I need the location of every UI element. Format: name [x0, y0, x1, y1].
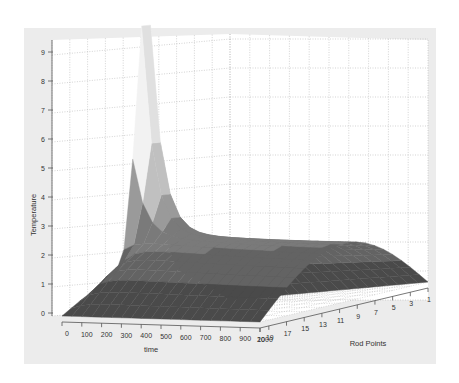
x-tick-label: 300 — [121, 332, 133, 339]
x-axis-label: time — [144, 345, 158, 354]
x-tick-label: 100 — [81, 331, 93, 338]
z-tick-label: 3 — [41, 223, 45, 230]
x-tick-label: 0 — [65, 330, 69, 337]
y-tick-label: 9 — [356, 313, 360, 320]
z-tick-label: 1 — [41, 281, 45, 288]
y-tick-label: 19 — [266, 334, 274, 341]
y-tick-label: 15 — [301, 325, 309, 332]
z-axis-label: Temperature — [29, 194, 38, 236]
x-tick-label: 900 — [239, 335, 251, 342]
z-tick-label: 6 — [41, 136, 45, 143]
x-tick-label: 700 — [200, 334, 212, 341]
surface-plot-figure: 0123456789 01002003004005006007008009001… — [0, 0, 459, 383]
y-tick-label: 3 — [409, 300, 413, 307]
y-axis-label: Rod Points — [350, 339, 387, 348]
z-tick-label: 0 — [41, 310, 45, 317]
z-tick-label: 9 — [41, 49, 45, 56]
y-tick-label: 13 — [319, 321, 327, 328]
x-tick-label: 600 — [180, 334, 192, 341]
y-tick-label: 7 — [374, 309, 378, 316]
x-tick-label: 500 — [160, 333, 172, 340]
x-tick-label: 800 — [220, 335, 232, 342]
y-tick-label: 1 — [427, 296, 431, 303]
z-tick-label: 2 — [41, 252, 45, 259]
z-tick-label: 8 — [41, 78, 45, 85]
y-tick-label: 5 — [392, 304, 396, 311]
x-tick-label: 400 — [140, 332, 152, 339]
z-tick-label: 4 — [41, 194, 45, 201]
y-tick-label: 17 — [284, 330, 292, 337]
z-tick-label: 5 — [41, 165, 45, 172]
y-tick-label: 11 — [337, 317, 344, 324]
x-tick-label: 200 — [101, 331, 113, 338]
y-tick-label: 20 — [257, 336, 265, 343]
z-tick-label: 7 — [41, 107, 45, 114]
